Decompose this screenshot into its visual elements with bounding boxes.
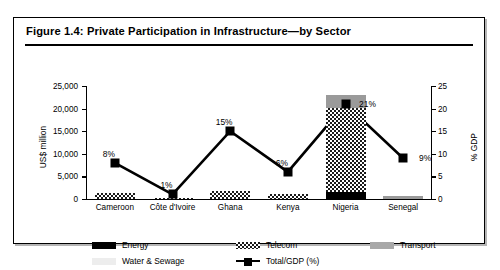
y-tick-label-right: 0 bbox=[438, 195, 468, 204]
line-data-point[interactable] bbox=[226, 127, 235, 136]
y-tick-label-left: 10,000 bbox=[34, 149, 78, 158]
y-tick-right bbox=[432, 109, 436, 110]
y-tick-label-left: 20,000 bbox=[34, 104, 78, 113]
y-tick-label-right: 10 bbox=[438, 149, 468, 158]
title-divider bbox=[25, 44, 473, 46]
line-data-point[interactable] bbox=[341, 100, 350, 109]
bar-stack[interactable] bbox=[95, 193, 135, 199]
y-tick-label-left: 5,000 bbox=[34, 172, 78, 181]
chart-plot-area: US$ million % GDP 05,00010,00015,00020,0… bbox=[14, 48, 483, 243]
y-tick-right bbox=[432, 199, 436, 200]
transport-swatch bbox=[370, 242, 394, 249]
figure-frame: Figure 1.4: Private Participation in Inf… bbox=[13, 17, 485, 244]
y-tick-left bbox=[82, 86, 86, 87]
x-axis-category-label: Kenya bbox=[276, 203, 299, 212]
y-tick-label-left: 0 bbox=[34, 195, 78, 204]
y-tick-label-left: 25,000 bbox=[34, 82, 78, 91]
chart-legend: EnergyTelecomTransportWater & SewageTota… bbox=[14, 240, 483, 270]
figure-title: Figure 1.4: Private Participation in Inf… bbox=[26, 25, 351, 37]
x-axis-category-label: Ghana bbox=[218, 203, 243, 212]
line-data-point[interactable] bbox=[110, 158, 119, 167]
bar-stack[interactable] bbox=[326, 95, 366, 199]
line-data-label: 15% bbox=[216, 117, 233, 127]
line-swatch bbox=[236, 257, 260, 266]
line-data-label: 21% bbox=[359, 99, 376, 109]
x-axis-category-label: Senegal bbox=[388, 203, 418, 212]
x-axis-category-label: Côte d'Ivoire bbox=[150, 203, 196, 212]
line-data-label: 1% bbox=[160, 180, 172, 190]
y-tick-right bbox=[432, 86, 436, 87]
bar-segment-telecom bbox=[268, 194, 308, 199]
legend-item[interactable]: Transport bbox=[370, 240, 436, 250]
y-tick-left bbox=[82, 176, 86, 177]
legend-label: Water & Sewage bbox=[122, 256, 185, 266]
line-data-label: 9% bbox=[419, 153, 431, 163]
line-data-label: 8% bbox=[103, 149, 115, 159]
x-axis-category-label: Nigeria bbox=[333, 203, 359, 212]
y-tick-label-right: 15 bbox=[438, 127, 468, 136]
bar-stack[interactable] bbox=[383, 196, 423, 199]
y-tick-left bbox=[82, 154, 86, 155]
y-tick-left bbox=[82, 199, 86, 200]
bar-segment-energy bbox=[326, 192, 366, 199]
bar-segment-telecom bbox=[95, 193, 135, 199]
legend-label: Total/GDP (%) bbox=[266, 256, 319, 266]
bar-segment-transport bbox=[383, 196, 423, 199]
y-tick-label-right: 25 bbox=[438, 82, 468, 91]
total-gdp-line bbox=[14, 48, 483, 243]
legend-label: Energy bbox=[122, 240, 149, 250]
y-tick-left bbox=[82, 109, 86, 110]
y-tick-label-right: 20 bbox=[438, 104, 468, 113]
y-tick-label-left: 15,000 bbox=[34, 127, 78, 136]
line-data-point[interactable] bbox=[283, 167, 292, 176]
legend-item[interactable]: Water & Sewage bbox=[92, 256, 185, 266]
bar-stack[interactable] bbox=[268, 194, 308, 199]
x-axis-category-label: Cameroon bbox=[96, 203, 134, 212]
bar-stack[interactable] bbox=[210, 191, 250, 199]
legend-label: Telecom bbox=[266, 240, 297, 250]
bar-segment-telecom bbox=[326, 108, 366, 192]
water-swatch bbox=[92, 258, 116, 265]
legend-item[interactable]: Telecom bbox=[236, 240, 297, 250]
line-data-label: 6% bbox=[276, 158, 288, 168]
y-tick-label-right: 5 bbox=[438, 172, 468, 181]
legend-item[interactable]: Energy bbox=[92, 240, 149, 250]
legend-item[interactable]: Total/GDP (%) bbox=[236, 256, 319, 266]
telecom-swatch bbox=[236, 242, 260, 249]
y-tick-right bbox=[432, 154, 436, 155]
legend-label: Transport bbox=[400, 240, 436, 250]
y-tick-right bbox=[432, 131, 436, 132]
y-tick-right bbox=[432, 176, 436, 177]
line-data-point[interactable] bbox=[168, 190, 177, 199]
energy-swatch bbox=[92, 242, 116, 249]
bar-segment-telecom bbox=[210, 191, 250, 199]
y-tick-left bbox=[82, 131, 86, 132]
line-data-point[interactable] bbox=[399, 154, 408, 163]
